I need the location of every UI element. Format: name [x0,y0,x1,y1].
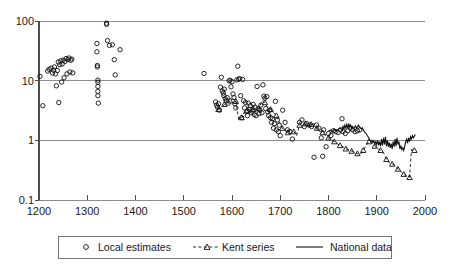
chart-background [0,0,450,264]
x-tick-label-1700: 1700 [268,205,292,217]
x-tick-label-1400: 1400 [123,205,147,217]
chart-container: 0.1110100 120013001400150016001700180019… [0,0,450,264]
y-tick-label-100: 100 [16,15,34,27]
log-scatter-chart: 0.1110100 120013001400150016001700180019… [0,0,450,264]
y-tick-label-10: 10 [22,75,34,87]
x-axis-labels: 120013001400150016001700180019002000 [27,205,437,217]
x-tick-label-1500: 1500 [172,205,196,217]
x-tick-label-1800: 1800 [316,205,340,217]
legend-label: Local estimates [98,241,171,253]
legend-label: National data [330,241,392,253]
x-tick-label-1300: 1300 [75,205,99,217]
y-tick-label-1: 1 [28,134,34,146]
chart-legend: Local estimatesKent seriesNational data [58,236,392,258]
legend-label: Kent series [222,241,275,253]
x-tick-label-1900: 1900 [365,205,389,217]
x-tick-label-1200: 1200 [27,205,51,217]
x-tick-label-1600: 1600 [220,205,244,217]
x-tick-label-2000: 2000 [413,205,437,217]
